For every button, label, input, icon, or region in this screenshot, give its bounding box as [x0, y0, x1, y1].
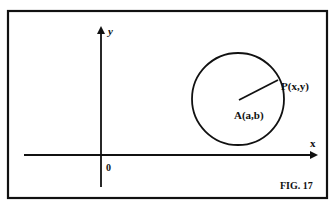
- center-label: A(a,b): [234, 109, 264, 122]
- x-axis-label: x: [310, 137, 316, 149]
- figure-caption: FIG. 17: [280, 180, 313, 191]
- circle: [192, 53, 284, 145]
- origin-label: 0: [106, 162, 111, 173]
- figure-frame: [8, 11, 327, 198]
- point-label: P(x,y): [281, 80, 309, 93]
- y-axis-label: y: [106, 25, 113, 37]
- figure-diagram: y x 0 P(x,y) A(a,b) FIG. 17: [0, 0, 334, 203]
- radius-line: [239, 80, 278, 100]
